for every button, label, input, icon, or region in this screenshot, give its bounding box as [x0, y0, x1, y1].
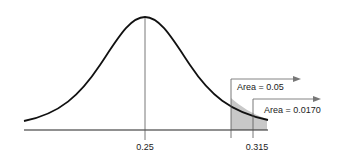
area-label-2: Area = 0.0170: [264, 105, 321, 115]
tick-label-mean: 0.25: [136, 142, 154, 152]
normal-curve-chart: Area = 0.05 Area = 0.0170 0.25 0.315: [0, 0, 338, 160]
arrowhead-1: [293, 76, 301, 82]
tick-label-stat: 0.315: [246, 142, 269, 152]
area-label-1: Area = 0.05: [237, 82, 284, 92]
arrowhead-2: [313, 96, 321, 102]
